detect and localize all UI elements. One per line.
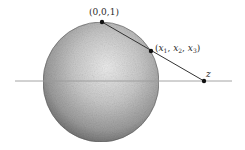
- sphere-point-label: (x1, x2, x3): [155, 43, 200, 54]
- sphere-point: [149, 49, 153, 53]
- plane-point-label: z: [205, 69, 211, 79]
- stereographic-projection-diagram: (0,0,1) (x1, x2, x3) z: [0, 0, 245, 150]
- north-pole-label: (0,0,1): [89, 7, 119, 17]
- sphere: [43, 22, 159, 142]
- plane-point-z: [202, 79, 206, 83]
- north-pole-point: [100, 20, 104, 24]
